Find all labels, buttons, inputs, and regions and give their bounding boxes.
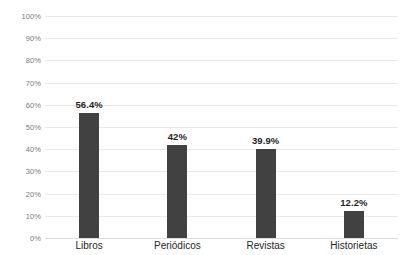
bar <box>79 113 99 238</box>
plot-area: 56.4%42%39.9%12.2% <box>45 16 398 238</box>
bar <box>167 145 187 238</box>
y-tick-label: 90% <box>26 34 41 43</box>
bar-chart: 0%10%20%30%40%50%60%70%80%90%100% 56.4%4… <box>0 0 413 255</box>
bar-group: 39.9% <box>222 16 310 238</box>
y-tick-label: 60% <box>26 100 41 109</box>
x-tick-label: Libros <box>76 240 103 251</box>
y-tick-label: 100% <box>21 12 41 21</box>
y-axis: 0%10%20%30%40%50%60%70%80%90%100% <box>0 16 41 238</box>
bar <box>256 149 276 238</box>
y-tick-label: 0% <box>30 234 41 243</box>
y-tick-label: 20% <box>26 189 41 198</box>
bar-value-label: 39.9% <box>252 135 279 146</box>
x-tick-label: Revistas <box>246 240 284 251</box>
x-tick-label: Periódicos <box>154 240 201 251</box>
bar-group: 42% <box>133 16 221 238</box>
x-tick-label: Historietas <box>330 240 377 251</box>
bar-group: 56.4% <box>45 16 133 238</box>
gridline <box>45 238 398 239</box>
bar-group: 12.2% <box>310 16 398 238</box>
y-tick-label: 50% <box>26 123 41 132</box>
bar <box>344 211 364 238</box>
y-tick-label: 70% <box>26 78 41 87</box>
x-axis: LibrosPeriódicosRevistasHistorietas <box>45 240 398 255</box>
y-tick-label: 10% <box>26 211 41 220</box>
y-tick-label: 40% <box>26 145 41 154</box>
bar-value-label: 56.4% <box>75 99 102 110</box>
bar-value-label: 12.2% <box>340 197 367 208</box>
y-tick-label: 80% <box>26 56 41 65</box>
bar-value-label: 42% <box>168 131 187 142</box>
y-tick-label: 30% <box>26 167 41 176</box>
